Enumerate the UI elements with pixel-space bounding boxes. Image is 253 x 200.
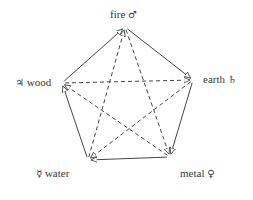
jupiter-icon: ♃ (15, 77, 24, 88)
edges (63, 29, 192, 160)
solid-edge-fire-earth (127, 29, 190, 78)
node-water-label: ☿ water (36, 167, 69, 179)
mercury-icon: ☿ (36, 168, 42, 179)
solid-edge-earth-metal (171, 83, 192, 154)
node-fire-label: fire ♂ (110, 8, 137, 20)
saturn-icon: ♄ (228, 74, 237, 85)
solid-edge-water-wood (63, 86, 87, 157)
dashed-edge-water-fire (89, 30, 124, 157)
dashed-edge-earth-water (90, 82, 190, 158)
dashed-edge-fire-metal (126, 30, 169, 154)
node-earth-label: earth ♄ (203, 73, 237, 85)
mars-icon: ♂ (128, 9, 137, 20)
venus-icon: ♀ (207, 168, 214, 179)
node-metal-label: metal ♀ (180, 167, 215, 179)
solid-edge-metal-water (91, 157, 167, 160)
dashed-edge-metal-wood (64, 85, 167, 156)
solid-edge-wood-fire (64, 29, 123, 81)
node-wood-label: ♃ wood (15, 76, 51, 88)
dashed-edge-wood-earth (65, 80, 190, 83)
